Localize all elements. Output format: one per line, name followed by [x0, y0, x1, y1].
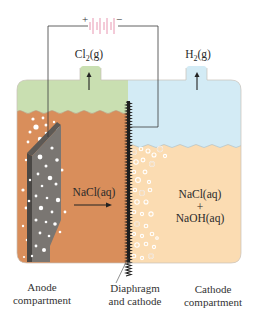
battery-negative-sign: −	[114, 13, 124, 26]
electrolysis-cell-diagram	[0, 0, 259, 320]
anode-compartment-label: Anode compartment	[10, 281, 74, 307]
diaphragm-cathode-label: Diaphragm and cathode	[102, 282, 168, 308]
anode-solution-label: NaCl(aq)	[68, 186, 120, 200]
battery-positive-sign: +	[80, 13, 90, 26]
cl2-gas-label: Cl2(g)	[68, 48, 110, 64]
cathode-solution-label: NaCl(aq) + NaOH(aq)	[168, 188, 232, 226]
battery-icon	[90, 18, 114, 34]
h2-gas-label: H2(g)	[177, 48, 219, 64]
cathode-compartment-label: Cathode compartment	[180, 283, 246, 309]
